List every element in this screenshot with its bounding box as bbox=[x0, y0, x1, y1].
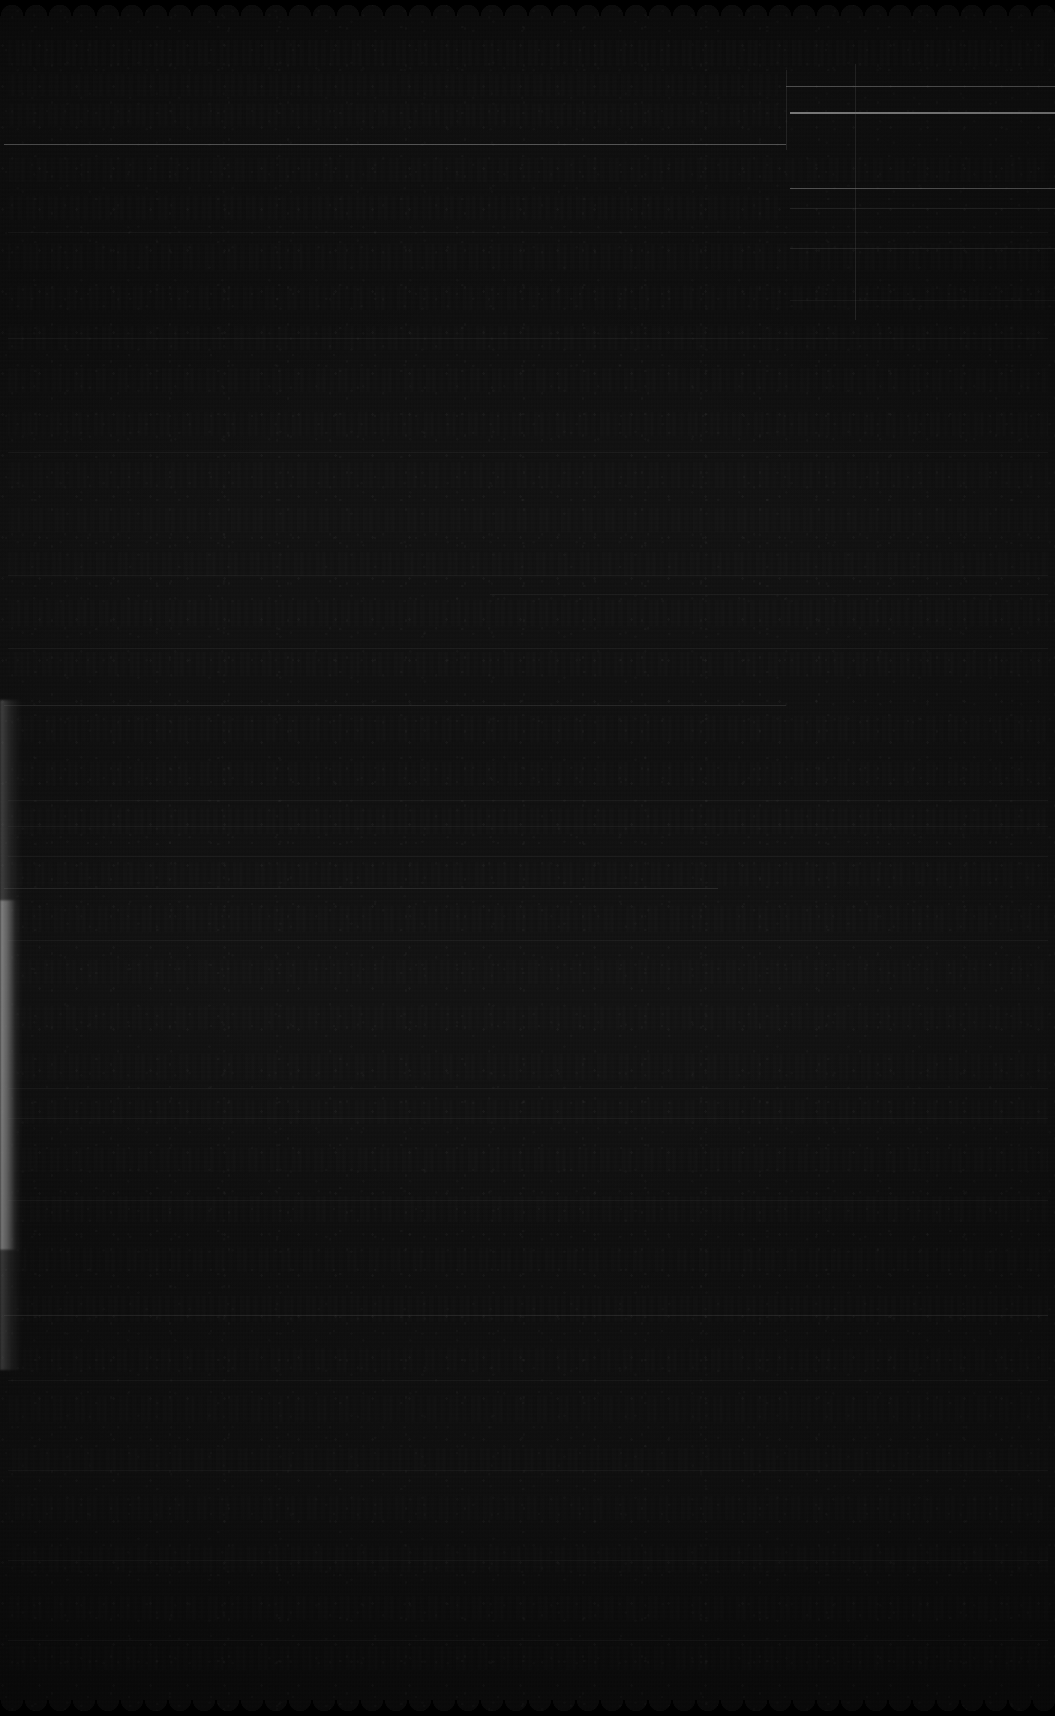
scanned-document-page: scanned-ruled-ledger-page illegible seve… bbox=[0, 0, 1055, 1716]
scan-noise-speckle bbox=[0, 0, 1055, 1716]
